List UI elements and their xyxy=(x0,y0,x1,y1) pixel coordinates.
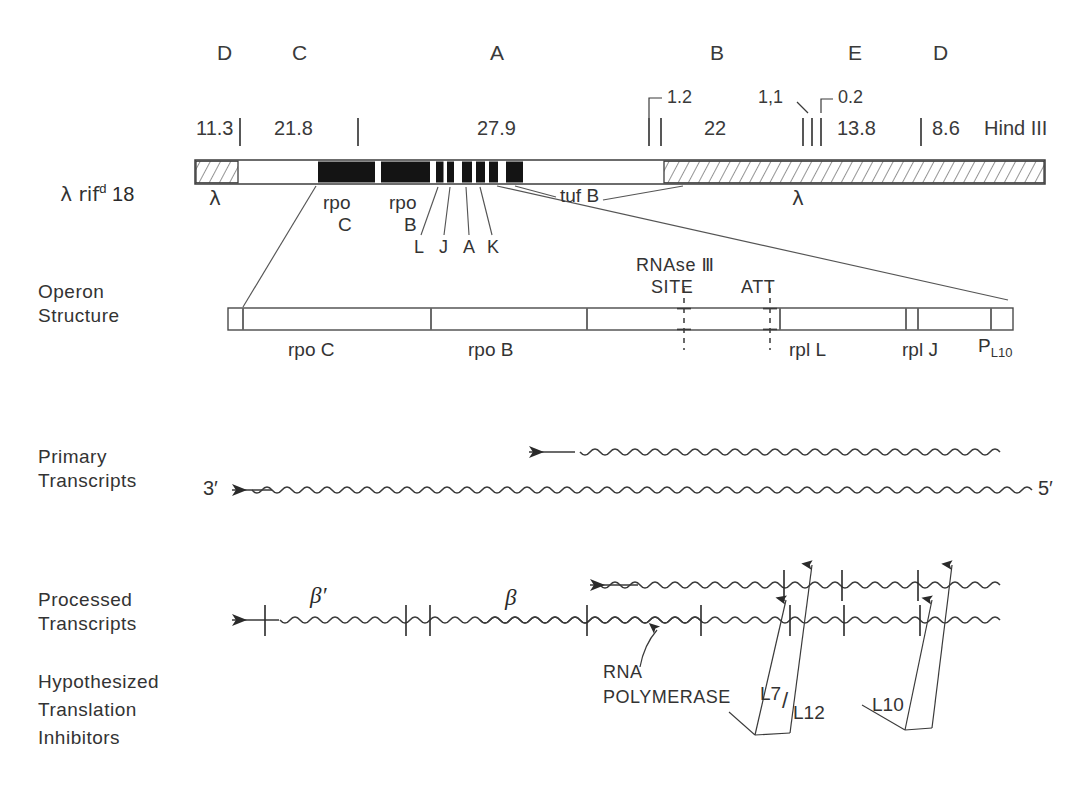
construct-gene-rpo-c-line2: C xyxy=(338,215,352,234)
operon-gene-rpl-l: rpl L xyxy=(789,340,826,359)
fragment-letter-c: C xyxy=(292,42,307,63)
operon-gene-rpl-j: rpl J xyxy=(902,340,938,359)
row-label-inhibitors-line2: Translation xyxy=(38,700,137,719)
inhibitor-l7-label: L7 xyxy=(760,684,781,703)
fragment-letter-d2: D xyxy=(933,42,948,63)
enzyme-label-hind3: Hind III xyxy=(984,118,1047,138)
row-label-inhibitors-line1: Hypothesized xyxy=(38,672,159,691)
fragment-size-22: 22 xyxy=(704,118,726,138)
ribosomal-gene-a: A xyxy=(463,238,475,256)
primary-transcripts-graphic xyxy=(232,449,1032,493)
fragment-letter-b: B xyxy=(710,42,724,63)
fragment-size-27-9: 27.9 xyxy=(477,118,516,138)
construct-name: λ rifd 18 xyxy=(38,162,134,224)
fragment-size-21-8: 21.8 xyxy=(274,118,313,138)
inhibitor-l10-label: L10 xyxy=(872,695,904,714)
row-label-inhibitors-line3: Inhibitors xyxy=(38,728,120,747)
figure-canvas: D C A B E D 1.2 1,1 0.2 11.3 21.8 27.9 2… xyxy=(0,0,1089,811)
operon-structure-bar xyxy=(228,288,1013,350)
restriction-tick-marks xyxy=(240,118,921,146)
beta-prime-label: β′ xyxy=(310,584,327,607)
row-label-primary-line2: Transcripts xyxy=(38,471,137,490)
inhibitor-l12-label: L12 xyxy=(793,703,825,722)
fragment-size-11-3: 11.3 xyxy=(196,118,233,138)
row-label-processed-line2: Transcripts xyxy=(38,614,137,633)
operon-promoter-pl10: PL10 xyxy=(978,336,1012,359)
inhibitor-slash: / xyxy=(782,690,788,712)
ribosomal-gene-j: J xyxy=(439,238,448,256)
lambda-left-arm-label: λ xyxy=(209,188,221,208)
ribosomal-gene-l: L xyxy=(414,238,424,256)
lambda-right-arm-label: λ xyxy=(792,188,804,208)
rnase3-site-line2: SITE xyxy=(651,278,693,296)
small-fragment-1-1: 1,1 xyxy=(758,88,783,106)
rnase3-site-line1: RNAse Ⅲ xyxy=(636,256,715,274)
beta-label: β xyxy=(505,586,516,609)
fragment-letter-a: A xyxy=(490,42,504,63)
fragment-size-8-6: 8.6 xyxy=(932,118,960,138)
operon-gene-rpo-c: rpo C xyxy=(288,340,334,359)
construct-gene-tuf-b: tuf B xyxy=(560,186,599,205)
att-site-label: ATT xyxy=(741,278,775,296)
row-label-operon-line2: Structure xyxy=(38,306,120,325)
fragment-letter-e: E xyxy=(848,42,862,63)
construct-gene-rpo-c-line1: rpo xyxy=(323,193,350,212)
fragment-letter-d1: D xyxy=(217,42,232,63)
fragment-size-13-8: 13.8 xyxy=(837,118,876,138)
row-label-operon-line1: Operon xyxy=(38,282,104,301)
gene-leader-lines xyxy=(243,186,1008,307)
operon-gene-rpo-b: rpo B xyxy=(468,340,513,359)
processed-transcripts-graphic xyxy=(232,570,1000,636)
rna-polymerase-line1: RNA xyxy=(603,663,643,681)
ribosomal-gene-k: K xyxy=(487,238,499,256)
construct-gene-rpo-b-line2: B xyxy=(404,215,417,234)
row-label-primary-line1: Primary xyxy=(38,447,107,466)
diagram-graphics xyxy=(0,0,1089,811)
three-prime-label: 3′ xyxy=(203,478,218,498)
five-prime-label: 5′ xyxy=(1038,478,1053,498)
small-fragment-0-2: 0.2 xyxy=(838,88,863,106)
row-label-processed-line1: Processed xyxy=(38,590,132,609)
rna-polymerase-line2: POLYMERASE xyxy=(603,688,731,706)
construct-gene-rpo-b-line1: rpo xyxy=(389,193,416,212)
lambda-rif-bar xyxy=(195,160,1045,184)
small-fragment-1-2: 1.2 xyxy=(667,88,692,106)
